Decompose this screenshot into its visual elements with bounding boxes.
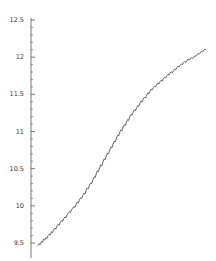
y-tick-label: 10 — [0, 202, 24, 209]
y-axis-major-ticks — [31, 20, 35, 243]
y-tick-label: 11 — [0, 128, 24, 135]
y-axis — [31, 18, 35, 258]
chart-canvas — [0, 0, 216, 261]
data-series-line — [38, 49, 206, 245]
y-tick-label: 10.5 — [0, 165, 24, 172]
chart-container: 9.51010.51111.51212.5 — [0, 0, 216, 261]
y-tick-label: 11.5 — [0, 91, 24, 98]
y-tick-label: 12 — [0, 54, 24, 61]
y-tick-label: 9.5 — [0, 240, 24, 247]
y-tick-label: 12.5 — [0, 17, 24, 24]
